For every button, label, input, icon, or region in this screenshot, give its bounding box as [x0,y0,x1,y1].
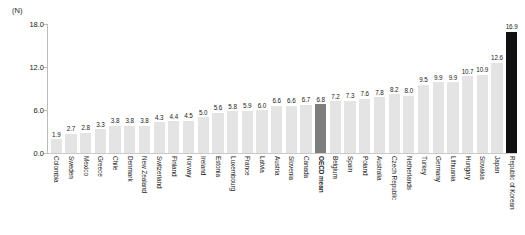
x-tick-text: Colombia [53,156,60,183]
bar[interactable] [286,106,297,153]
bar-column[interactable]: 10.9 [477,24,488,153]
bar[interactable] [374,97,385,153]
bar-column[interactable]: 10.7 [462,24,473,153]
bar-column[interactable]: 2.7 [65,24,76,153]
bar-column[interactable]: 7.3 [344,24,355,153]
bar[interactable] [80,133,91,153]
bar[interactable] [403,96,414,153]
x-tick-label: Lithuania [447,156,458,235]
x-tick-label: New Zealand [139,156,150,235]
bar-column[interactable]: 12.6 [491,24,502,153]
bar[interactable] [433,82,444,153]
bar-column[interactable]: 4.4 [168,24,179,153]
bar[interactable] [51,139,62,153]
x-tick-label: Greece [95,156,106,235]
bar-column[interactable]: 2.8 [80,24,91,153]
bar[interactable] [227,111,238,153]
bar-column[interactable]: 5.9 [242,24,253,153]
bar-column[interactable]: 6.0 [256,24,267,153]
x-tick-text: Hungary [464,156,471,180]
bar[interactable] [95,129,106,153]
y-tick-label: 6.0 [8,110,44,119]
bar-column[interactable]: 9.9 [433,24,444,153]
bar-value-label: 7.8 [375,89,383,96]
bar[interactable] [256,110,267,153]
y-tick-label: 12.0 [8,67,44,76]
x-tick-text: Netherlands [405,156,412,190]
bar-value-label: 6.0 [258,102,266,109]
bar[interactable] [109,126,120,153]
x-tick-text: Mexico [82,156,89,176]
bar[interactable] [65,134,76,153]
bar-column[interactable]: 5.6 [212,24,223,153]
bar[interactable] [477,75,488,153]
x-tick-label: Finland [168,156,179,235]
x-tick-label: Canada [300,156,311,235]
bar[interactable] [462,76,473,153]
bar[interactable] [212,113,223,153]
bar-column[interactable]: 16.9 [506,24,517,153]
bar-column[interactable]: 9.5 [418,24,429,153]
bar-value-label: 1.9 [52,131,60,138]
bar[interactable] [139,126,150,153]
bar[interactable] [418,85,429,153]
x-tick-text: Greece [97,156,104,177]
bar[interactable] [315,104,326,153]
bar-column[interactable]: 9.9 [447,24,458,153]
bar-value-label: 3.8 [140,117,148,124]
bar-column[interactable]: 6.7 [300,24,311,153]
bar[interactable] [242,111,253,153]
bar[interactable] [506,32,517,153]
bar-value-label: 9.5 [419,76,427,83]
bar[interactable] [344,101,355,153]
bar-column[interactable]: 8.2 [389,24,400,153]
bar-column[interactable]: 6.6 [271,24,282,153]
bar-value-label: 6.8 [316,96,324,103]
bar-column[interactable]: 8.0 [403,24,414,153]
x-tick-text: Slovakia [479,156,486,180]
x-tick-text: Denmark [126,156,133,182]
bar-value-label: 7.2 [331,93,339,100]
bar-column[interactable]: 3.8 [109,24,120,153]
x-tick-label: OECD mean [315,156,326,235]
x-tick-text: France [244,156,251,176]
bar-column[interactable]: 4.3 [154,24,165,153]
bar-column[interactable]: 5.0 [198,24,209,153]
y-tick-text: 0.0 [8,149,44,158]
bar[interactable] [389,94,400,153]
bar-column[interactable]: 3.8 [124,24,135,153]
bar[interactable] [168,121,179,153]
bar[interactable] [183,121,194,153]
bar-column[interactable]: 3.8 [139,24,150,153]
bar-column[interactable]: 3.3 [95,24,106,153]
bar-value-label: 10.9 [476,66,488,73]
bar[interactable] [300,105,311,153]
x-tick-label: Spain [344,156,355,235]
bar-column[interactable]: 7.8 [374,24,385,153]
x-tick-label: Australia [374,156,385,235]
bar-column[interactable]: 5.8 [227,24,238,153]
bar[interactable] [154,122,165,153]
bar-column[interactable]: 4.5 [183,24,194,153]
bar-value-label: 3.8 [111,117,119,124]
x-tick-text: Luxembourg [229,156,236,191]
x-tick-label: Mexico [80,156,91,235]
x-tick-label: Turkey [418,156,429,235]
bar-column[interactable]: 7.2 [330,24,341,153]
bar[interactable] [330,101,341,153]
y-tick-text: 6.0 [8,106,44,115]
bar-column[interactable]: 1.9 [51,24,62,153]
bar[interactable] [447,82,458,153]
x-tick-label: Netherlands [403,156,414,235]
bar[interactable] [491,63,502,153]
bar[interactable] [271,106,282,153]
bar-value-label: 6.7 [302,96,310,103]
bar[interactable] [198,117,209,153]
x-tick-label: Denmark [124,156,135,235]
x-tick-text: Germany [435,156,442,182]
bar-column[interactable]: 7.6 [359,24,370,153]
bar-column[interactable]: 6.6 [286,24,297,153]
bar[interactable] [359,99,370,153]
bar[interactable] [124,126,135,153]
bar-column[interactable]: 6.8 [315,24,326,153]
